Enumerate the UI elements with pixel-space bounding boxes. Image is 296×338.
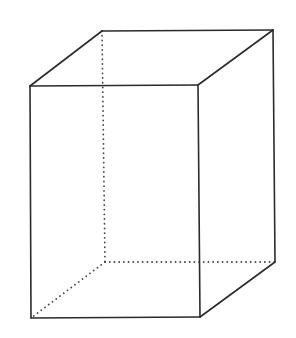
visible-edge-front-bottom-right-to-back-bottom-right <box>200 262 275 317</box>
visible-edge-front-top-right-to-back-top-right <box>198 30 273 85</box>
visible-edge-front-top-left-to-front-top-right <box>30 85 198 86</box>
visible-edge-front-top-left-to-back-top-left <box>30 31 102 86</box>
hidden-edge-back-bottom-left-to-front-bottom-left <box>31 262 105 318</box>
hidden-edges <box>31 31 275 318</box>
visible-edge-back-top-left-to-back-top-right <box>102 30 273 31</box>
visible-edge-back-top-right-to-back-bottom-right <box>273 30 275 262</box>
visible-edge-front-bottom-left-to-front-top-left <box>30 86 31 318</box>
visible-edge-front-top-right-to-front-bottom-right <box>198 85 200 317</box>
visible-edge-front-bottom-right-to-front-bottom-left <box>31 317 200 318</box>
hidden-edge-back-top-left-to-back-bottom-left <box>102 31 105 262</box>
rectangular-prism-diagram <box>0 0 296 338</box>
visible-edges <box>30 30 275 318</box>
